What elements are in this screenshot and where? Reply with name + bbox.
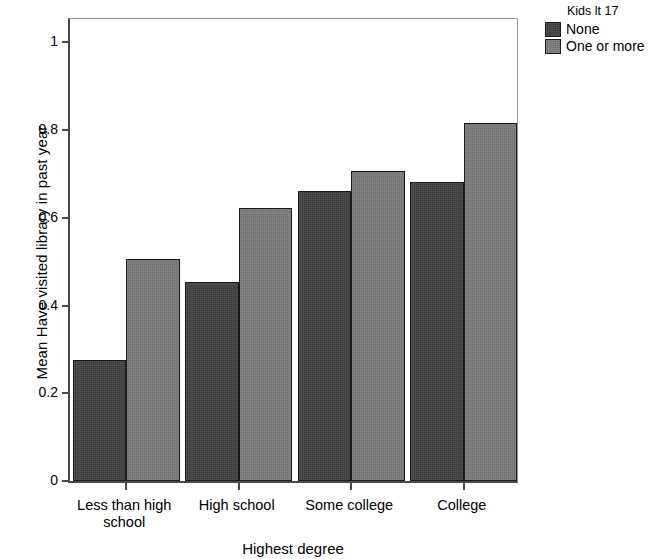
y-tick-mark — [62, 392, 70, 394]
x-axis-title: Highest degree — [68, 540, 518, 557]
y-tick-mark — [62, 480, 70, 482]
legend-swatch — [545, 22, 561, 37]
y-tick-label: 0 — [50, 471, 58, 490]
x-tick-label-line: school — [49, 514, 199, 531]
bar — [410, 182, 464, 481]
x-tick-label-line: College — [387, 497, 537, 514]
bar — [239, 208, 293, 481]
legend-label: One or more — [566, 38, 645, 54]
y-tick-mark — [62, 305, 70, 307]
x-tick-mark — [125, 481, 127, 490]
bar — [73, 360, 127, 482]
bar — [126, 259, 180, 481]
legend-item: None — [545, 21, 664, 37]
x-tick-label: College — [387, 497, 537, 514]
y-tick-label: 0.4 — [39, 296, 58, 315]
legend-swatch — [545, 39, 561, 54]
legend-item: One or more — [545, 38, 664, 54]
legend-label: None — [566, 21, 599, 37]
y-tick-mark — [62, 217, 70, 219]
bar-chart-figure: Mean Have visited library in past year 0… — [0, 0, 664, 559]
legend-entries: NoneOne or more — [545, 21, 664, 54]
bar — [351, 171, 405, 481]
x-tick-mark — [350, 481, 352, 490]
y-tick-label: 0.8 — [39, 120, 58, 139]
y-axis-title: Mean Have visited library in past year — [33, 33, 50, 473]
x-tick-mark — [463, 481, 465, 490]
plot-frame: 00.20.40.60.81 — [68, 18, 518, 483]
y-tick-mark — [62, 129, 70, 131]
legend: Kids lt 17 NoneOne or more — [545, 4, 664, 55]
bar — [298, 191, 352, 481]
y-tick-label: 0.2 — [39, 383, 58, 402]
y-tick-mark — [62, 41, 70, 43]
bar — [185, 282, 239, 481]
plot-area — [70, 19, 517, 481]
y-tick-label: 1 — [50, 32, 58, 51]
bar — [464, 123, 518, 481]
y-tick-label: 0.6 — [39, 208, 58, 227]
legend-title: Kids lt 17 — [567, 4, 664, 18]
x-tick-mark — [238, 481, 240, 490]
